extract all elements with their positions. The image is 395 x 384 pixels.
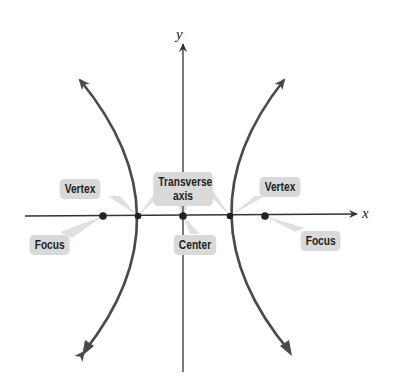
x-axis-label: x xyxy=(362,205,369,222)
vertex-left-label: Vertex xyxy=(60,179,101,199)
center-point xyxy=(179,212,187,220)
focus-left-point xyxy=(99,212,107,220)
transverse-axis-label: Transverse axis xyxy=(153,172,213,206)
hyperbola-right-branch xyxy=(231,80,290,352)
transverse-axis-label-line2: axis xyxy=(158,189,207,203)
transverse-axis-label-line1: Transverse xyxy=(158,175,207,189)
x-axis xyxy=(25,214,357,216)
focus-right-label: Focus xyxy=(301,231,341,251)
focus-left-label: Focus xyxy=(30,235,70,255)
focus-right-point xyxy=(261,212,269,220)
vertex-left-point xyxy=(135,213,142,220)
vertex-right-label: Vertex xyxy=(260,177,301,197)
hyperbola-diagram: y x Transverse axis Vertex Vertex Focus … xyxy=(0,0,395,384)
y-axis-label: y xyxy=(176,26,183,43)
vertex-right-point xyxy=(227,213,234,220)
center-label: Center xyxy=(174,235,217,255)
